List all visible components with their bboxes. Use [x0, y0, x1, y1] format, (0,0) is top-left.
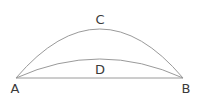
label-d: D — [95, 62, 105, 77]
label-a: A — [11, 81, 20, 96]
arc-diagram: C D A B — [0, 0, 200, 107]
label-b: B — [182, 81, 191, 96]
label-c: C — [95, 12, 104, 27]
